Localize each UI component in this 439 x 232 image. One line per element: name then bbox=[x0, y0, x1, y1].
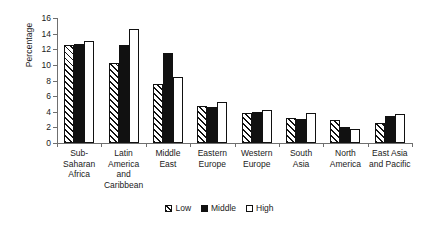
bar-group bbox=[279, 18, 323, 143]
y-tick-label: 10 bbox=[42, 61, 51, 70]
x-tick bbox=[368, 143, 369, 147]
bar-low bbox=[375, 123, 385, 143]
y-tick-label: 8 bbox=[46, 76, 51, 85]
bar-low bbox=[153, 84, 163, 143]
bar-middle bbox=[252, 112, 262, 143]
y-tick-label: 14 bbox=[42, 29, 51, 38]
y-tick-label: 16 bbox=[42, 14, 51, 23]
category-label: MiddleEast bbox=[146, 148, 190, 169]
bar-group bbox=[146, 18, 190, 143]
legend-swatch-icon bbox=[201, 205, 208, 212]
bar-high bbox=[350, 129, 360, 143]
x-tick bbox=[323, 143, 324, 147]
bar-middle bbox=[340, 127, 350, 143]
legend-label: High bbox=[256, 203, 273, 213]
bar-high bbox=[306, 113, 316, 143]
category-label: NorthAmerica bbox=[323, 148, 367, 169]
bar-middle bbox=[119, 45, 129, 143]
category-label: SouthAsia bbox=[279, 148, 323, 169]
x-tick bbox=[235, 143, 236, 147]
bar-group bbox=[57, 18, 101, 143]
legend-swatch-icon bbox=[165, 205, 172, 212]
y-tick-label: 6 bbox=[46, 92, 51, 101]
bar-middle bbox=[385, 116, 395, 143]
bar-low bbox=[286, 118, 296, 143]
bar-group bbox=[101, 18, 145, 143]
x-tick bbox=[146, 143, 147, 147]
legend-label: Middle bbox=[211, 203, 236, 213]
legend-swatch-icon bbox=[246, 205, 253, 212]
bar-middle bbox=[163, 53, 173, 143]
category-label: WesternEurope bbox=[235, 148, 279, 169]
legend-label: Low bbox=[175, 203, 191, 213]
x-tick bbox=[190, 143, 191, 147]
category-label: East Asiaand Pacific bbox=[368, 148, 412, 169]
bar-middle bbox=[296, 119, 306, 143]
bar-high bbox=[395, 114, 405, 143]
bar-group bbox=[323, 18, 367, 143]
bar-low bbox=[242, 113, 252, 143]
y-tick-label: 12 bbox=[42, 45, 51, 54]
bar-group bbox=[190, 18, 234, 143]
legend-item-high: High bbox=[246, 203, 273, 213]
bar-group bbox=[368, 18, 412, 143]
x-tick bbox=[412, 143, 413, 147]
y-axis-title: Percentage bbox=[24, 0, 34, 100]
bar-high bbox=[84, 41, 94, 143]
bar-middle bbox=[207, 107, 217, 143]
y-tick-label: 2 bbox=[46, 123, 51, 132]
bar-low bbox=[109, 63, 119, 143]
bar-chart-figure: Percentage 0246810121416 Sub-SaharanAfri… bbox=[0, 0, 439, 232]
bar-low bbox=[197, 106, 207, 144]
bar-low bbox=[64, 45, 74, 143]
legend-item-middle: Middle bbox=[201, 203, 236, 213]
bar-high bbox=[129, 29, 139, 143]
bar-group bbox=[235, 18, 279, 143]
chart-legend: LowMiddleHigh bbox=[0, 203, 439, 213]
x-tick bbox=[279, 143, 280, 147]
category-label: Sub-SaharanAfrica bbox=[57, 148, 101, 180]
legend-item-low: Low bbox=[165, 203, 191, 213]
bar-high bbox=[262, 110, 272, 143]
plot-area: 0246810121416 bbox=[57, 18, 412, 143]
bar-middle bbox=[74, 44, 84, 143]
bar-high bbox=[173, 77, 183, 143]
bar-low bbox=[330, 120, 340, 143]
category-label: LatinAmericaandCaribbean bbox=[101, 148, 145, 190]
bar-high bbox=[217, 102, 227, 143]
y-tick-label: 0 bbox=[46, 139, 51, 148]
x-tick bbox=[101, 143, 102, 147]
x-tick bbox=[57, 143, 58, 147]
category-label: EasternEurope bbox=[190, 148, 234, 169]
y-tick-label: 4 bbox=[46, 108, 51, 117]
